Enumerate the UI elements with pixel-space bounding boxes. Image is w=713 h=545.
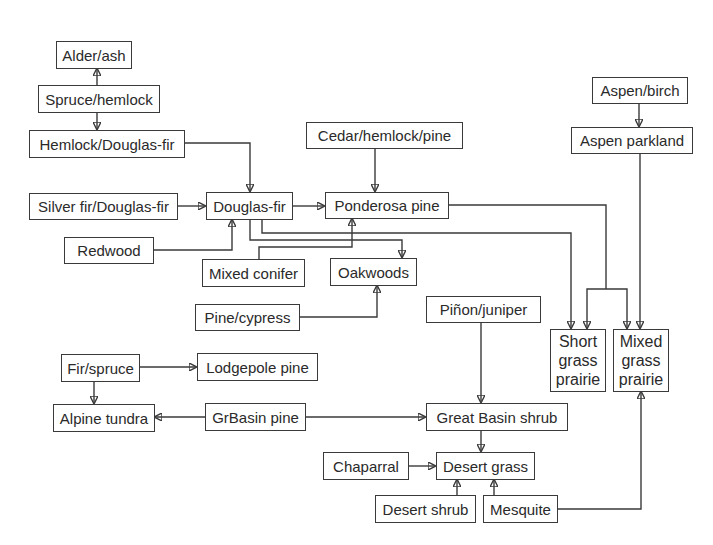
node-aspen-parkland: Aspen parkland	[571, 127, 693, 154]
node-label: Douglas-fir	[213, 198, 286, 215]
node-label: Redwood	[77, 242, 140, 259]
node-label: Alder/ash	[62, 47, 125, 64]
edge-split-to-shortgrass	[587, 289, 606, 328]
node-pinon-juniper: Piñon/juniper	[426, 296, 541, 323]
node-spruce-hemlock: Spruce/hemlock	[38, 85, 160, 113]
node-oakwoods: Oakwoods	[330, 258, 417, 286]
node-label-line: grass	[556, 351, 600, 370]
node-label: Aspen/birch	[600, 82, 679, 99]
node-label: Chaparral	[333, 458, 399, 475]
node-label-line: prairie	[619, 370, 663, 389]
node-label: Desert shrub	[383, 501, 469, 518]
node-mixed-conifer: Mixed conifer	[202, 259, 305, 287]
node-label: Hemlock/Douglas-fir	[39, 136, 174, 153]
node-pine-cypress: Pine/cypress	[195, 304, 300, 331]
node-label: Desert grass	[443, 458, 528, 475]
node-mesquite: Mesquite	[483, 495, 558, 523]
node-alpine-tundra: Alpine tundra	[53, 404, 155, 432]
node-label: Mesquite	[490, 501, 551, 518]
node-label: Ponderosa pine	[334, 197, 439, 214]
node-label: Spruce/hemlock	[45, 91, 153, 108]
node-short-grass-prairie: Short grass prairie	[550, 329, 606, 392]
edge-mesquite-to-mixedgrass	[557, 392, 641, 509]
node-label-line: Mixed	[619, 332, 663, 351]
node-label-line: prairie	[556, 370, 600, 389]
edge-ponderosa-to-prairies	[448, 205, 606, 289]
node-label: Mixed conifer	[209, 265, 298, 282]
node-grbasin-pine: GrBasin pine	[205, 403, 306, 431]
node-silver-fir-douglas-fir: Silver fir/Douglas-fir	[29, 193, 178, 220]
node-label: Alpine tundra	[60, 410, 148, 427]
node-label: Piñon/juniper	[440, 301, 528, 318]
node-redwood: Redwood	[64, 237, 154, 264]
node-lodgepole-pine: Lodgepole pine	[197, 353, 318, 381]
node-label: Aspen parkland	[580, 132, 684, 149]
node-douglas-fir: Douglas-fir	[206, 192, 293, 220]
edge-redwood-to-df	[153, 220, 232, 250]
node-ponderosa-pine: Ponderosa pine	[325, 192, 449, 219]
node-label: Silver fir/Douglas-fir	[38, 198, 169, 215]
node-aspen-birch: Aspen/birch	[592, 77, 688, 104]
node-cedar-hemlock-pine: Cedar/hemlock/pine	[306, 122, 463, 149]
node-fir-spruce: Fir/spruce	[61, 354, 140, 382]
node-desert-shrub: Desert shrub	[375, 495, 476, 523]
edge-df-to-oakwoods	[250, 219, 402, 257]
node-label: Oakwoods	[338, 264, 409, 281]
edge-mixedconifer-to-ponderosa	[259, 219, 352, 259]
node-label: Lodgepole pine	[206, 359, 309, 376]
node-label: Pine/cypress	[205, 309, 291, 326]
node-hemlock-douglas-fir: Hemlock/Douglas-fir	[29, 130, 185, 158]
node-great-basin-shrub: Great Basin shrub	[426, 403, 568, 431]
node-label: GrBasin pine	[212, 409, 299, 426]
node-label: Great Basin shrub	[437, 409, 558, 426]
node-label: Fir/spruce	[67, 360, 134, 377]
node-desert-grass: Desert grass	[436, 452, 535, 480]
node-alder-ash: Alder/ash	[56, 41, 132, 69]
edge-hemlock-df-to-df	[184, 143, 250, 191]
succession-diagram: Alder/ash Spruce/hemlock Hemlock/Douglas…	[0, 0, 713, 545]
edge-split-to-mixedgrass	[606, 289, 627, 328]
node-label-line: Short	[556, 332, 600, 351]
node-chaparral: Chaparral	[323, 452, 409, 480]
node-label-line: grass	[619, 351, 663, 370]
edge-pinecypress-to-oakwoods	[299, 286, 377, 317]
node-label: Cedar/hemlock/pine	[318, 127, 451, 144]
node-mixed-grass-prairie: Mixed grass prairie	[613, 329, 669, 392]
